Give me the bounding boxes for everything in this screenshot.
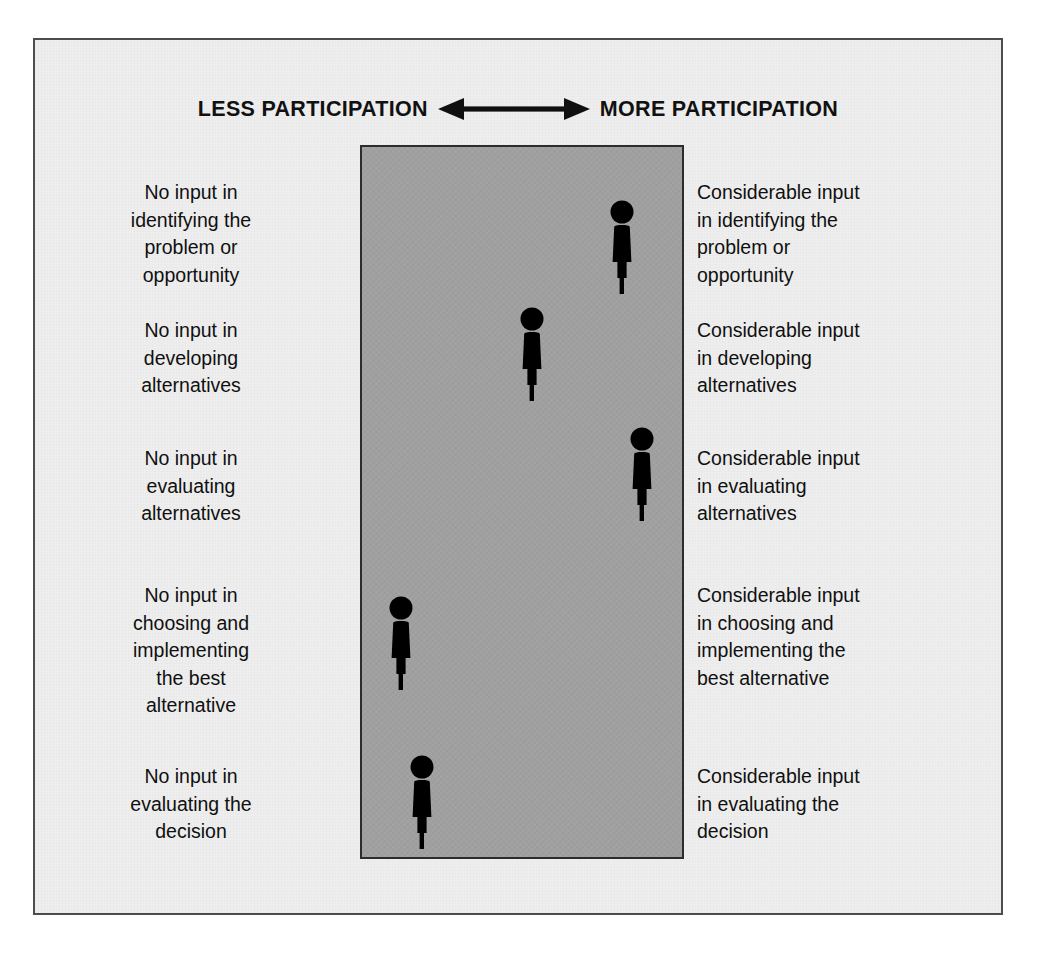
stage-row: No input in identifying the problem or o… [35, 179, 1001, 319]
stage-row: No input in evaluating alternatives Cons… [35, 445, 1001, 565]
person-figure-icon [512, 307, 552, 403]
stage-left-label-identifying-problem: No input in identifying the problem or o… [35, 179, 355, 289]
stage-row: No input in choosing and implementing th… [35, 582, 1001, 737]
less-participation-label: LESS PARTICIPATION [198, 97, 428, 122]
person-figure-icon [622, 427, 662, 523]
person-figure-choosing-implementing [381, 596, 421, 692]
stage-left-label-choosing-implementing: No input in choosing and implementing th… [35, 582, 355, 720]
stage-right-label-identifying-problem: Considerable input in identifying the pr… [697, 179, 997, 289]
person-figure-evaluating-alternatives [622, 427, 662, 523]
person-figure-icon [381, 596, 421, 692]
stage-row: No input in developing alternatives Cons… [35, 317, 1001, 437]
person-figure-identifying-problem [602, 200, 642, 296]
stage-row: No input in evaluating the decision Cons… [35, 763, 1001, 883]
stage-right-label-developing-alternatives: Considerable input in developing alterna… [697, 317, 997, 400]
double-headed-arrow-icon [438, 97, 590, 121]
stage-left-label-evaluating-alternatives: No input in evaluating alternatives [35, 445, 355, 528]
person-figure-icon [402, 755, 442, 851]
stage-right-label-choosing-implementing: Considerable input in choosing and imple… [697, 582, 997, 692]
stage-right-label-evaluating-decision: Considerable input in evaluating the dec… [697, 763, 997, 846]
person-figure-icon [602, 200, 642, 296]
stage-left-label-evaluating-decision: No input in evaluating the decision [35, 763, 355, 846]
diagram-body: No input in identifying the problem or o… [35, 145, 1001, 885]
person-figure-evaluating-decision [402, 755, 442, 851]
stage-left-label-developing-alternatives: No input in developing alternatives [35, 317, 355, 400]
participation-scale-header: LESS PARTICIPATION MORE PARTICIPATION [35, 92, 1001, 126]
figure-frame: LESS PARTICIPATION MORE PARTICIPATION No… [33, 38, 1003, 915]
stage-right-label-evaluating-alternatives: Considerable input in evaluating alterna… [697, 445, 997, 528]
more-participation-label: MORE PARTICIPATION [600, 97, 838, 122]
person-figure-developing-alternatives [512, 307, 552, 403]
